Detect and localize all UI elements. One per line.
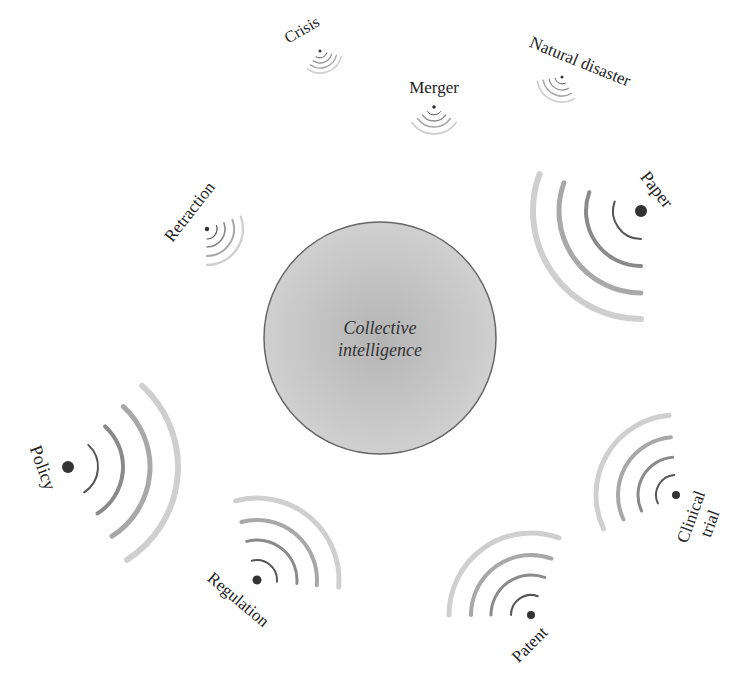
- signal-label-crisis: Crisis: [281, 13, 322, 46]
- signal-label-policy: Policy: [26, 443, 61, 493]
- signal-policy: Policy: [26, 386, 178, 560]
- signal-wave-arc: [596, 415, 669, 529]
- signal-label-patent: Patent: [508, 623, 552, 667]
- signal-wave-arc: [449, 533, 559, 615]
- signal-wave-arc: [316, 53, 327, 58]
- signal-source-dot: [62, 461, 74, 473]
- signal-wave-arc: [127, 386, 178, 560]
- signal-source-dot: [635, 205, 647, 217]
- center-label-line1: Collective: [344, 318, 417, 338]
- signal-source-dot: [432, 105, 436, 109]
- signal-natural-disaster: Natural disaster: [527, 33, 634, 102]
- signal-wave-arc: [84, 445, 98, 492]
- signal-wave-arc: [418, 118, 451, 127]
- center-node: Collective intelligence: [264, 222, 496, 454]
- signal-wave-arc: [638, 457, 673, 511]
- signal-wave-arc: [471, 555, 552, 615]
- signal-wave-arc: [555, 78, 565, 84]
- signal-wave-arc: [412, 122, 456, 134]
- signal-wave-arc: [307, 57, 341, 73]
- signal-wave-arc: [207, 223, 225, 247]
- signal-source-dot: [319, 50, 322, 53]
- signal-wave-arc: [313, 54, 331, 63]
- signal-wave-arc: [427, 112, 440, 115]
- signal-patent: Patent: [449, 533, 559, 666]
- signal-wave-arc: [537, 81, 574, 102]
- center-label-line2: intelligence: [338, 340, 422, 360]
- signal-paper: Paper: [533, 167, 677, 319]
- signal-label-retraction: Retraction: [160, 178, 219, 246]
- signal-wave-arc: [511, 595, 538, 615]
- signal-wave-arc: [559, 183, 641, 293]
- signal-source-dot: [527, 611, 535, 619]
- signal-label-regulation: Regulation: [204, 568, 274, 631]
- signal-source-dot: [253, 576, 262, 585]
- signal-regulation: Regulation: [204, 498, 339, 631]
- signal-wave-arc: [98, 426, 123, 513]
- signal-label-clinical-trial: Clinicaltrial: [673, 488, 728, 552]
- signal-wave-arc: [549, 79, 568, 90]
- signal-label-paper: Paper: [636, 167, 677, 212]
- signal-wave-arc: [423, 115, 446, 121]
- collective-intelligence-diagram: CrisisMergerNatural disasterRetractionPa…: [0, 0, 747, 679]
- signal-wave-arc: [112, 407, 150, 537]
- signal-label-merger: Merger: [409, 78, 459, 97]
- signal-source-dot: [205, 227, 209, 231]
- signal-wave-arc: [241, 520, 317, 585]
- signal-source-dot: [672, 491, 680, 499]
- signal-retraction: Retraction: [160, 178, 243, 265]
- signal-source-dot: [561, 76, 564, 79]
- signal-crisis: Crisis: [281, 13, 341, 73]
- signal-wave-arc: [236, 498, 339, 587]
- signal-clinical-trial: Clinicaltrial: [596, 415, 728, 552]
- center-circle: [264, 222, 496, 454]
- signal-wave-arc: [656, 475, 674, 503]
- signal-merger: Merger: [409, 78, 459, 134]
